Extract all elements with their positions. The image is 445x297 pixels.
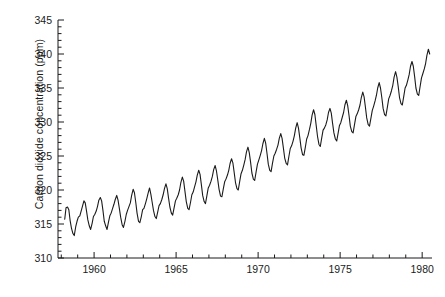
axis-lines bbox=[58, 20, 432, 258]
plot-area bbox=[0, 0, 445, 297]
x-axis-ticks bbox=[61, 252, 422, 258]
co2-chart: Carbon dioxide concentration (ppm) 31031… bbox=[0, 0, 445, 297]
co2-series-line bbox=[65, 49, 430, 235]
y-axis-ticks bbox=[58, 20, 64, 258]
